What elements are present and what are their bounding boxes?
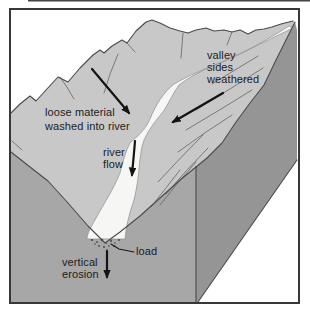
loose-material-label: loose material washed into river bbox=[45, 105, 130, 133]
scan-artifact-line bbox=[28, 0, 310, 2]
river-flow-label: river flow bbox=[103, 146, 125, 170]
valley-sides-weathered-label: valley sides weathered bbox=[207, 49, 259, 85]
vertical-erosion-label: vertical erosion bbox=[62, 256, 99, 280]
valley-erosion-diagram: loose material washed into river valley … bbox=[0, 0, 310, 313]
load-label: load bbox=[136, 245, 157, 257]
diagram-canvas bbox=[0, 0, 310, 313]
